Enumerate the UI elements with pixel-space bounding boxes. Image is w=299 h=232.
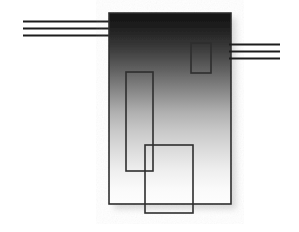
figure-container: [0, 0, 299, 232]
main-gradient-body: [109, 13, 231, 204]
figure-drawing: [0, 0, 299, 232]
